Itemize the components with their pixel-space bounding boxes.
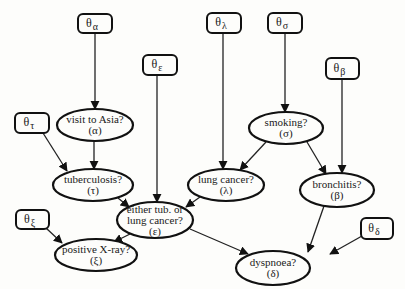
edge-either-to-dyspnoea bbox=[190, 229, 248, 254]
param-node-theta_tau: θτ bbox=[15, 113, 49, 133]
variable-node-smoking: smoking?(σ) bbox=[249, 112, 323, 144]
variable-node-either: either tub. orlung cancer?(ε) bbox=[117, 202, 193, 238]
variable-node-lung_cancer: lung cancer?(λ) bbox=[188, 169, 264, 201]
bayesian-network-diagram: θαθεθλθσθβθτθξθδ visit to Asia?(α)smokin… bbox=[0, 0, 405, 289]
param-node-theta_epsilon: θε bbox=[143, 55, 177, 75]
node-label-line: (δ) bbox=[267, 267, 280, 280]
node-label-line: (τ) bbox=[87, 184, 99, 197]
node-label-line: (ε) bbox=[149, 225, 161, 238]
param-node-theta_beta: θβ bbox=[326, 58, 359, 79]
node-label-line: (β) bbox=[331, 189, 344, 202]
edge-theta_tau-to-tuberculosis bbox=[43, 133, 67, 171]
variable-node-asia: visit to Asia?(α) bbox=[57, 109, 133, 141]
variable-nodes-layer: visit to Asia?(α)smoking?(σ)tuberculosis… bbox=[53, 109, 374, 285]
variable-node-tuberculosis: tuberculosis?(τ) bbox=[53, 169, 133, 201]
param-node-theta_lambda: θλ bbox=[207, 13, 241, 33]
variable-node-xray: positive X-ray?(ξ) bbox=[55, 239, 137, 271]
node-label-line: (σ) bbox=[279, 127, 293, 140]
param-node-theta_alpha: θα bbox=[78, 14, 112, 33]
node-label-line: (ξ) bbox=[90, 254, 103, 267]
edge-theta_xi-to-xray bbox=[46, 228, 62, 243]
param-node-theta_delta: θδ bbox=[361, 218, 393, 239]
param-node-theta_sigma: θσ bbox=[268, 13, 302, 33]
edge-bronchitis-to-dyspnoea bbox=[308, 206, 324, 252]
edges-layer bbox=[43, 33, 362, 254]
edge-theta_delta-to-dyspnoea bbox=[330, 236, 362, 254]
node-label-line: (α) bbox=[88, 124, 101, 137]
edge-lung_cancer-to-either bbox=[186, 197, 200, 207]
node-label-line: (λ) bbox=[220, 184, 233, 197]
variable-node-dyspnoea: dyspnoea?(δ) bbox=[236, 251, 310, 285]
variable-node-bronchitis: bronchitis?(β) bbox=[300, 173, 374, 207]
edge-smoking-to-lung_cancer bbox=[240, 142, 266, 170]
edge-smoking-to-bronchitis bbox=[307, 142, 326, 174]
param-node-theta_xi: θξ bbox=[16, 210, 49, 229]
